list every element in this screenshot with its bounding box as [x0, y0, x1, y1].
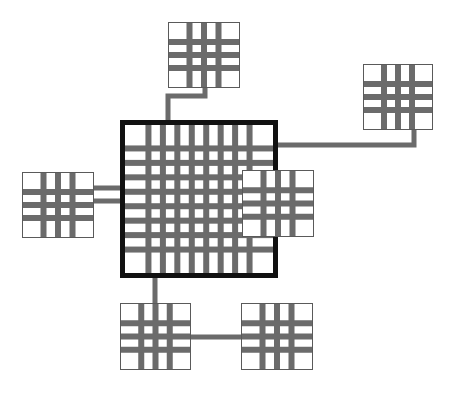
- grid-bar-horizontal: [120, 347, 191, 353]
- grid-bar-horizontal: [120, 320, 191, 326]
- network-diagram: [0, 0, 456, 397]
- diagram-canvas: [0, 0, 456, 397]
- grid-bar-horizontal: [241, 334, 313, 340]
- grid-bar-horizontal: [363, 94, 433, 100]
- grid-bar-horizontal: [168, 39, 240, 45]
- top-right-grid-cell[interactable]: [363, 64, 433, 130]
- grid-bar-horizontal: [124, 247, 274, 253]
- grid-bar-horizontal: [242, 214, 314, 220]
- top-grid-cell[interactable]: [168, 22, 240, 88]
- grid-bar-horizontal: [168, 65, 240, 71]
- grid-bar-horizontal: [241, 347, 313, 353]
- grid-bar-horizontal: [22, 189, 94, 195]
- grid-bar-horizontal: [124, 145, 274, 151]
- grid-bar-horizontal: [168, 52, 240, 58]
- grid-bar-horizontal: [363, 107, 433, 113]
- right-grid-cell[interactable]: [242, 170, 314, 237]
- grid-bar-horizontal: [363, 81, 433, 87]
- grid-bar-horizontal: [124, 160, 274, 166]
- bottom-left-grid-cell[interactable]: [120, 303, 191, 370]
- grid-bar-horizontal: [120, 334, 191, 340]
- grid-bar-horizontal: [22, 215, 94, 221]
- grid-bar-horizontal: [241, 320, 313, 326]
- grid-bar-horizontal: [22, 202, 94, 208]
- grid-bar-horizontal: [242, 201, 314, 207]
- left-grid-cell[interactable]: [22, 172, 94, 238]
- grid-bar-horizontal: [242, 187, 314, 193]
- bottom-right-grid-cell[interactable]: [241, 303, 313, 370]
